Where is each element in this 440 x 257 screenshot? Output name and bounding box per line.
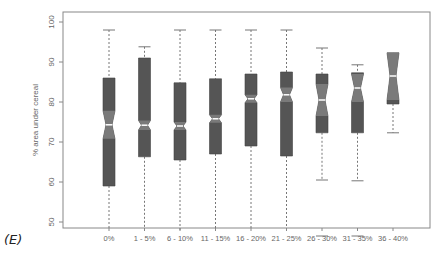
plot-area: 5060708090100% area under cereal0%1 - 5%… (31, 12, 430, 243)
box (281, 72, 293, 156)
box (139, 58, 151, 157)
x-tick-label: 6 - 10% (167, 234, 193, 243)
x-tick-label: 21 - 25% (271, 234, 301, 243)
x-tick-label: 11 - 15% (201, 234, 231, 243)
y-tick-label: 60 (47, 177, 56, 186)
x-tick-label: 0% (104, 234, 115, 243)
x-tick-label: 16 - 20% (236, 234, 266, 243)
x-tick-label: 31 - 35% (342, 234, 372, 243)
panel-label: (E) (4, 232, 22, 247)
y-axis-label: % area under cereal (31, 84, 40, 156)
x-tick-label: 1 - 5% (134, 234, 156, 243)
y-tick-label: 50 (47, 217, 56, 226)
y-tick-label: 100 (47, 15, 56, 29)
boxplot-chart: 5060708090100% area under cereal0%1 - 5%… (0, 0, 440, 257)
y-tick-label: 80 (47, 97, 56, 106)
x-tick-label: 26 - 30% (307, 234, 337, 243)
x-tick-label: 36 - 40% (378, 234, 408, 243)
y-tick-label: 90 (47, 57, 56, 66)
box (174, 83, 186, 160)
box (245, 74, 257, 146)
y-tick-label: 70 (47, 137, 56, 146)
